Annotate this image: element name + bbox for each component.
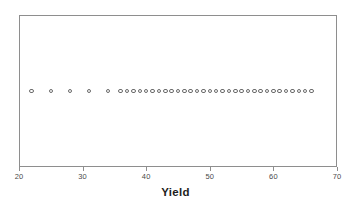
- data-point: [303, 89, 308, 94]
- data-point: [150, 89, 155, 94]
- data-point: [277, 89, 282, 94]
- x-tick-mark: [210, 167, 211, 171]
- data-point: [220, 89, 225, 94]
- data-point: [68, 89, 73, 94]
- data-point: [252, 89, 257, 94]
- data-point: [49, 89, 54, 94]
- x-tick-mark: [273, 167, 274, 171]
- data-point: [87, 89, 92, 94]
- data-point: [271, 89, 276, 94]
- data-point: [201, 89, 206, 94]
- data-point: [188, 89, 193, 94]
- data-point: [182, 89, 187, 94]
- data-point: [157, 89, 162, 94]
- data-point: [246, 89, 251, 94]
- x-tick-label: 70: [333, 172, 342, 181]
- data-point: [258, 89, 263, 94]
- dotplot-figure: 203040506070 Yield: [0, 0, 351, 209]
- x-tick-label: 40: [142, 172, 151, 181]
- data-point: [169, 89, 174, 94]
- data-point: [284, 89, 289, 94]
- x-axis-title: Yield: [0, 186, 351, 198]
- data-point: [29, 89, 34, 94]
- data-point: [309, 89, 314, 94]
- x-tick-label: 60: [269, 172, 278, 181]
- data-point: [265, 89, 270, 94]
- data-point: [227, 89, 232, 94]
- data-point: [118, 89, 123, 94]
- data-point: [131, 89, 136, 94]
- data-point: [214, 89, 219, 94]
- data-point: [297, 89, 302, 94]
- data-point: [144, 89, 149, 94]
- data-point: [290, 89, 295, 94]
- data-point: [138, 89, 143, 94]
- data-point: [106, 89, 111, 94]
- data-point: [208, 89, 213, 94]
- x-tick-label: 50: [205, 172, 214, 181]
- data-point: [239, 89, 244, 94]
- x-tick-mark: [83, 167, 84, 171]
- data-points-layer: [19, 15, 337, 167]
- data-point: [195, 89, 200, 94]
- x-tick-label: 20: [15, 172, 24, 181]
- data-point: [233, 89, 238, 94]
- x-tick-mark: [146, 167, 147, 171]
- data-point: [125, 89, 130, 94]
- data-point: [176, 89, 181, 94]
- data-point: [163, 89, 168, 94]
- x-tick-label: 30: [78, 172, 87, 181]
- x-tick-mark: [19, 167, 20, 171]
- x-tick-mark: [337, 167, 338, 171]
